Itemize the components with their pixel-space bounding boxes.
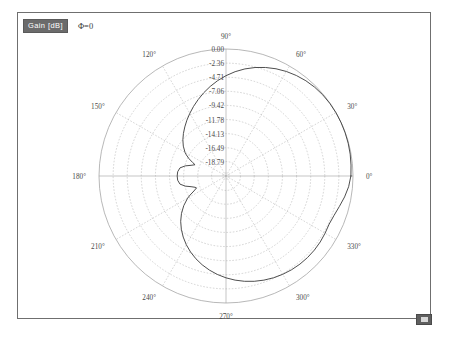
angular-tick-label: 330° (347, 243, 361, 251)
radial-tick-label: -11.78 (206, 117, 225, 125)
radial-tick-label: -7.06 (209, 88, 224, 96)
angular-tick-label: 120° (142, 51, 156, 59)
grid-spoke (116, 176, 226, 240)
polar-plot-app: Gain [dB] Φ=0 0.00-2.36-4.71-7.06-9.42-1… (0, 0, 449, 346)
radial-tick-label: -18.79 (205, 159, 224, 167)
angular-tick-label: 150° (91, 103, 105, 111)
angular-tick-label: 30° (347, 103, 357, 111)
radial-tick-label: -14.13 (205, 131, 224, 139)
angular-tick-label: 0° (366, 173, 373, 181)
square-glyph-icon (421, 317, 428, 322)
radial-tick-label: -16.49 (205, 145, 224, 153)
radial-tick-label: -2.36 (209, 60, 224, 68)
plot-options-button[interactable] (416, 314, 432, 325)
angular-tick-label: 90° (221, 33, 231, 41)
polar-chart[interactable]: 0.00-2.36-4.71-7.06-9.42-11.78-14.13-16.… (18, 13, 432, 320)
radial-tick-label: 0.00 (211, 46, 224, 54)
angular-tick-label: 300° (296, 294, 310, 302)
angular-tick-label: 270° (219, 313, 233, 320)
angular-tick-label: 60° (296, 51, 306, 59)
radial-tick-labels: 0.00-2.36-4.71-7.06-9.42-11.78-14.13-16.… (205, 46, 224, 167)
radial-tick-label: -9.42 (209, 102, 224, 110)
angular-tick-label: 210° (91, 243, 105, 251)
angular-tick-label: 240° (142, 294, 156, 302)
plot-frame: Gain [dB] Φ=0 0.00-2.36-4.71-7.06-9.42-1… (17, 12, 431, 319)
angular-tick-label: 180° (72, 173, 86, 181)
